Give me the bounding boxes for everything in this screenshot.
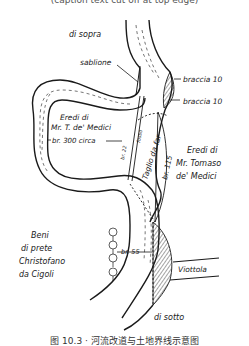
label-ditch: fosso <box>135 129 143 143</box>
label-braccia-lower: braccia 10 <box>183 97 223 106</box>
label-south: di sotto <box>154 313 184 322</box>
label-lane: Viottola <box>178 265 207 274</box>
label-cut: Taglio da far <box>140 133 163 181</box>
label-heirs-right-1: Eredi di <box>187 146 218 155</box>
label-heirs-right-3: de' Medici <box>176 172 217 181</box>
label-width-300: br. 300 circa <box>52 137 96 145</box>
hatched-area-lower <box>153 222 172 305</box>
caption-bottom: 图 10.3 · 河流改道与土地界线示意图 <box>0 336 249 346</box>
label-priest-2: di prete <box>21 244 52 253</box>
label-priest-1: Beni <box>31 231 49 240</box>
label-br55: br. 55 <box>121 248 140 256</box>
label-br115: br. 115 <box>161 154 174 180</box>
hatched-area-upper <box>163 72 174 108</box>
label-priest-4: da Cigoli <box>19 270 55 279</box>
river-map: di sopra sablione braccia 10 braccia 10 … <box>0 0 249 346</box>
label-heirs-right-2: Mr. Tomaso <box>176 159 221 168</box>
label-sandbank: sablione <box>80 58 112 67</box>
label-br22: br. 22 <box>119 145 127 160</box>
label-braccia-upper: braccia 10 <box>183 75 223 84</box>
leaders <box>47 65 181 252</box>
trees <box>109 228 117 281</box>
label-heirs-left-1: Eredi di <box>60 113 89 122</box>
caption-bottom-text: 图 10.3 · 河流改道与土地界线示意图 <box>0 336 249 346</box>
label-priest-3: Christofano <box>19 257 65 266</box>
label-heirs-left-2: Mr. T. de' Medici <box>51 123 112 132</box>
label-north: di sopra <box>69 30 101 39</box>
